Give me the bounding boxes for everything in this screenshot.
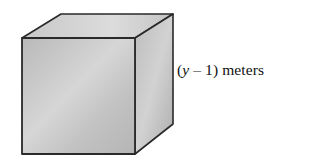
edge-length-label: (y – 1) meters <box>177 61 264 79</box>
label-constant: 1 <box>205 61 213 78</box>
cube-front-face <box>22 38 135 154</box>
label-operator: – <box>189 61 205 78</box>
cube-figure: (y – 1) meters <box>0 0 309 167</box>
cube-side-face <box>135 14 173 154</box>
label-unit: meters <box>218 61 264 78</box>
cube-drawing <box>0 0 309 167</box>
